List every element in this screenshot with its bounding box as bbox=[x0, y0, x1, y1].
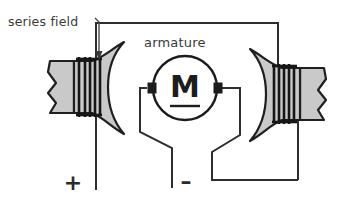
armature-motor-symbol: M bbox=[148, 56, 222, 120]
positive-terminal-label: + bbox=[64, 170, 82, 195]
right-yoke-body bbox=[300, 68, 326, 120]
armature-label: armature bbox=[144, 35, 206, 50]
negative-terminal-label: – bbox=[181, 169, 192, 194]
motor-letter: M bbox=[170, 69, 200, 104]
motor-right-terminal bbox=[214, 83, 222, 93]
motor-left-terminal bbox=[148, 83, 156, 93]
series-field-motor-diagram: M series field armature + – bbox=[0, 0, 342, 212]
left-yoke-body bbox=[48, 61, 74, 113]
series-field-label: series field bbox=[8, 14, 78, 29]
schematic-canvas: M series field armature + – bbox=[0, 0, 342, 212]
